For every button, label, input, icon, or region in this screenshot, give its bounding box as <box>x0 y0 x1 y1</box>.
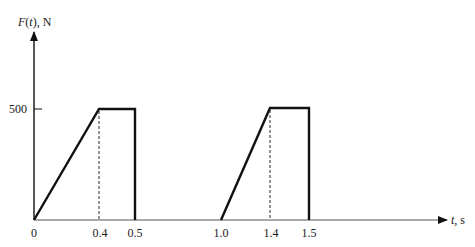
pulse-1 <box>34 109 135 220</box>
x-tick-label-1.5: 1.5 <box>302 226 317 240</box>
force-time-chart: F(t), N 500 0 0.4 0.5 1.0 1.4 1.5 t, s <box>0 0 475 247</box>
x-axis-label: t, s <box>451 213 465 227</box>
x-tick-label-1.4: 1.4 <box>264 226 279 240</box>
y-axis-label: F(t), N <box>17 15 52 29</box>
x-tick-label-0.5: 0.5 <box>128 226 143 240</box>
y-tick-label-500: 500 <box>9 102 27 116</box>
x-tick-label-0: 0 <box>31 226 37 240</box>
x-tick-label-0.4: 0.4 <box>93 226 108 240</box>
x-tick-label-1.0: 1.0 <box>214 226 229 240</box>
pulse-2 <box>221 108 309 220</box>
